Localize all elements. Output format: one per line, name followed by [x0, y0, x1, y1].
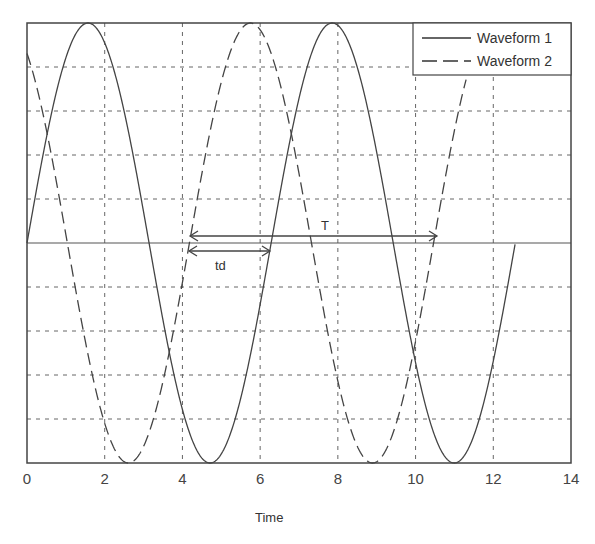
x-tick-label: 12	[485, 470, 502, 487]
delay-arrow	[189, 246, 270, 256]
x-tick-label: 4	[178, 470, 186, 487]
x-tick-label: 14	[563, 470, 580, 487]
period-arrow	[190, 231, 437, 241]
x-tick-label: 2	[101, 470, 109, 487]
x-tick-label: 8	[334, 470, 342, 487]
legend-label-waveform-2: Waveform 2	[477, 53, 552, 69]
delay-label: td	[215, 258, 226, 273]
x-axis-ticks: 02468101214	[23, 470, 580, 487]
legend-label-waveform-1: Waveform 1	[477, 30, 552, 46]
x-tick-label: 10	[407, 470, 424, 487]
x-tick-label: 6	[256, 470, 264, 487]
x-tick-label: 0	[23, 470, 31, 487]
period-label: T	[321, 218, 329, 233]
legend: Waveform 1 Waveform 2	[413, 23, 571, 75]
x-axis-label: Time	[255, 510, 283, 525]
waveform-chart: T td Waveform 1 Waveform 2 02468101214 T…	[0, 0, 595, 544]
